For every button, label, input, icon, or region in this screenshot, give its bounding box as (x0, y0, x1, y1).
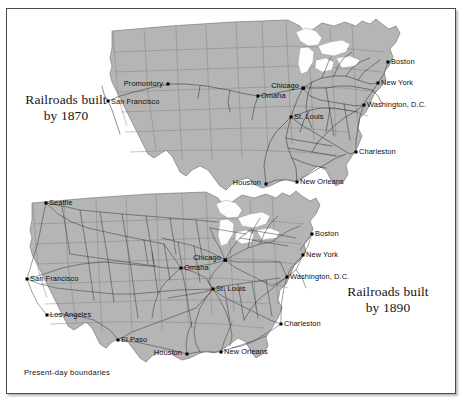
city-dot-st-louis-1890 (212, 288, 215, 291)
city-label-chicago-1870: Chicago (271, 81, 299, 90)
city-dot-boston-1890 (311, 233, 314, 236)
map-title-1870: Railroads built by 1870 (8, 92, 124, 123)
city-dot-new-york-1870 (377, 82, 380, 85)
city-label-charleston-1870: Charleston (359, 147, 396, 156)
city-dot-los-angeles (46, 314, 49, 317)
city-label-boston-1890: Boston (315, 229, 339, 238)
city-dot-omaha-1870 (257, 95, 260, 98)
map-title-1890: Railroads built by 1890 (330, 284, 446, 315)
city-label-new-orleans-1870: New Orleans (300, 177, 344, 186)
maps-canvas: Promontory San Francisco Chicago Omaha S… (0, 0, 464, 405)
city-dot-boston-1870 (387, 61, 390, 64)
city-dot-chicago-1870 (302, 87, 305, 90)
city-dot-houston-1870 (265, 183, 268, 186)
city-dot-houston-1890 (186, 353, 189, 356)
city-label-el-paso: El Paso (121, 335, 147, 344)
city-label-new-york-1870: New York (381, 78, 413, 87)
city-label-seattle: Seattle (49, 198, 73, 207)
city-label-charleston-1890: Charleston (284, 319, 321, 328)
city-dot-washington-dc-1890 (286, 276, 289, 279)
city-label-chicago-1890: Chicago (193, 253, 221, 262)
map-1870: Promontory San Francisco Chicago Omaha S… (102, 19, 426, 190)
city-label-boston-1870: Boston (391, 57, 415, 66)
city-label-omaha-1870: Omaha (261, 91, 287, 100)
city-dot-san-francisco-1890 (26, 278, 29, 281)
city-dot-charleston-1890 (280, 323, 283, 326)
city-label-st-louis-1890: St. Louis (216, 284, 246, 293)
city-dot-charleston-1870 (355, 151, 358, 154)
city-label-houston-1870: Houston (233, 178, 261, 187)
city-label-omaha-1890: Omaha (184, 263, 210, 272)
map-1890: Seattle San Francisco Los Angeles El Pas… (26, 191, 350, 362)
city-dot-washington-dc-1870 (363, 104, 366, 107)
city-label-washington-dc-1870: Washington, D.C. (367, 100, 426, 109)
city-dot-new-orleans-1870 (296, 181, 299, 184)
city-label-new-york-1890: New York (306, 250, 338, 259)
city-dot-new-orleans-1890 (220, 351, 223, 354)
city-dot-chicago-1890 (224, 259, 227, 262)
city-dot-st-louis-1870 (290, 116, 293, 119)
city-dot-seattle (45, 202, 48, 205)
city-label-promontory: Promontory (124, 79, 163, 88)
city-label-washington-dc-1890: Washington, D.C. (290, 272, 349, 281)
city-dot-el-paso (117, 339, 120, 342)
city-label-st-louis-1870: St. Louis (294, 112, 324, 121)
railroad-maps-figure: Promontory San Francisco Chicago Omaha S… (0, 0, 464, 405)
city-dot-promontory (167, 83, 170, 86)
city-label-san-francisco-1890: San Francisco (30, 274, 79, 283)
city-label-houston-1890: Houston (154, 348, 182, 357)
city-dot-new-york-1890 (302, 254, 305, 257)
city-dot-omaha-1890 (180, 267, 183, 270)
city-label-new-orleans-1890: New Orleans (224, 347, 268, 356)
boundaries-note: Present-day boundaries (24, 368, 110, 377)
city-label-los-angeles: Los Angeles (50, 310, 92, 319)
